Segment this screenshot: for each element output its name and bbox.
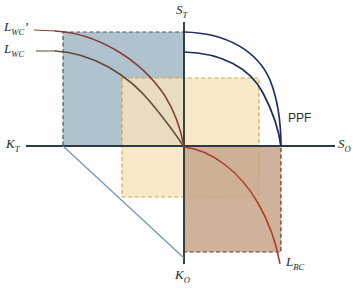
leader-lwc-prime — [34, 30, 56, 31]
label-ko-base: K — [175, 267, 184, 282]
label-ko: KO — [175, 268, 190, 284]
label-lwc-prime-mark: ’ — [24, 19, 28, 34]
label-kt-sub: T — [15, 144, 20, 154]
label-ppf: PPF — [288, 112, 311, 124]
diagram-svg — [0, 0, 361, 293]
brown-box — [184, 146, 281, 252]
label-lwc: LWC — [4, 42, 24, 58]
label-kt: KT — [6, 137, 19, 153]
label-st-sub: T — [183, 10, 188, 20]
label-so: SO — [338, 137, 351, 153]
leader-lines — [34, 30, 56, 51]
label-lbc-sub: BC — [293, 262, 304, 272]
label-kt-base: K — [6, 136, 15, 151]
label-lwc-prime-sub: WC — [11, 27, 24, 37]
label-lwc-prime: LWC’ — [4, 20, 28, 36]
label-lbc: LBC — [286, 255, 304, 271]
figure-canvas: LWC’ LWC ST KT SO KO PPF LBC — [0, 0, 361, 293]
label-lwc-sub: WC — [11, 49, 24, 59]
label-ko-sub: O — [184, 275, 190, 285]
label-st: ST — [176, 3, 187, 19]
rectangles-layer — [63, 32, 281, 252]
label-so-sub: O — [345, 144, 351, 154]
